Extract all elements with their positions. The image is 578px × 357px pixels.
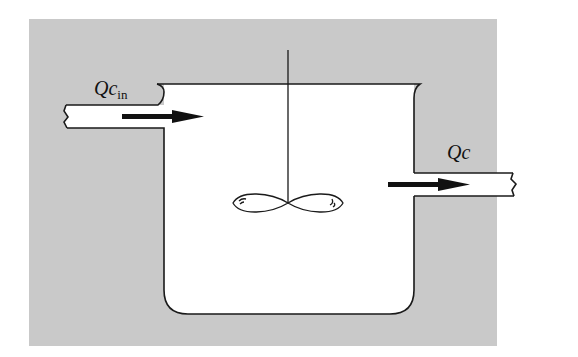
inflow-label-main: Qc — [94, 77, 117, 99]
inflow-label-subscript: in — [117, 87, 127, 102]
outflow-label: Qc — [447, 142, 470, 162]
cstr-diagram — [0, 0, 578, 357]
diagram-stage: Qcin Qc — [0, 0, 578, 357]
outflow-label-main: Qc — [447, 141, 470, 163]
inflow-label: Qcin — [94, 78, 127, 101]
